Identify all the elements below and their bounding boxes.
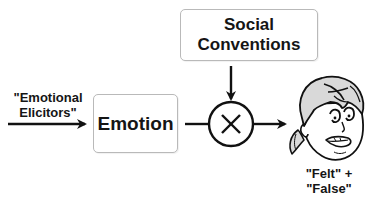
elicitors-line-1: "Emotional xyxy=(2,90,94,105)
emotional-elicitors-label: "Emotional Elicitors" xyxy=(2,90,94,120)
emotion-node: Emotion xyxy=(93,94,178,153)
cartoon-face-icon xyxy=(288,74,368,166)
emotion-label: Emotion xyxy=(98,113,174,135)
faces-line-2: Faces xyxy=(283,196,375,199)
diagram-canvas: "Emotional Elicitors" Emotion Social Con… xyxy=(0,0,375,199)
elicitors-line-2: Elicitors" xyxy=(2,105,94,120)
social-conventions-node: Social Conventions xyxy=(180,9,318,61)
conventions-label: Conventions xyxy=(198,35,301,55)
felt-false-faces-label: "Felt" + "False" Faces xyxy=(283,166,375,199)
multiply-operator-icon xyxy=(209,102,253,146)
social-label: Social xyxy=(224,15,274,35)
faces-line-1: "Felt" + "False" xyxy=(283,166,375,196)
